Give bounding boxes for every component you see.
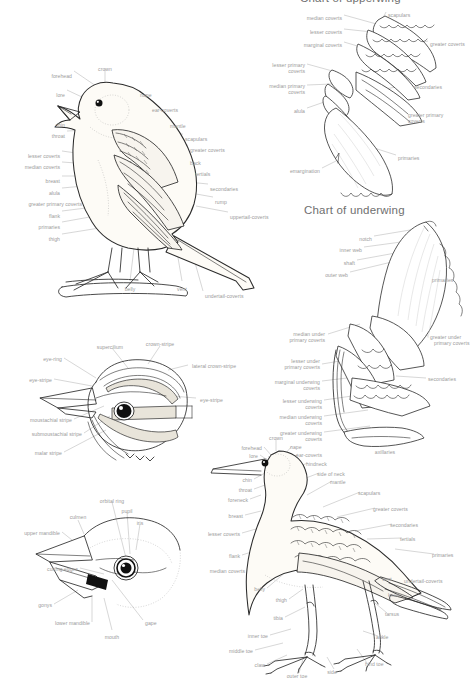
anatomy-label: claw [255, 662, 265, 668]
anatomy-label: nape [140, 92, 152, 98]
anatomy-label: crown [269, 435, 283, 441]
anatomy-label: notch [359, 236, 372, 242]
anatomy-label: scapulars [388, 12, 410, 18]
anatomy-label: gonys [38, 602, 52, 608]
anatomy-label: primary coverts [284, 364, 320, 370]
anatomy-label: ear-coverts [296, 452, 322, 458]
anatomy-label: hindneck [306, 461, 327, 467]
anatomy-label: median coverts [307, 15, 342, 21]
anatomy-label: alula [294, 108, 305, 114]
anatomy-label: belly [125, 286, 136, 292]
anatomy-label: hind toe [365, 661, 384, 667]
anatomy-label: crown [98, 66, 112, 72]
anatomy-label: crown-stripe [146, 341, 174, 347]
anatomy-label: breast [46, 178, 60, 184]
anatomy-label: lower mandible [55, 620, 90, 626]
upperwing-figure [240, 0, 472, 210]
anatomy-label: tarsus [385, 611, 399, 617]
anatomy-label: eye-stripe [29, 377, 52, 383]
anatomy-label: culmen [70, 514, 87, 520]
anatomy-label: throat [239, 487, 252, 493]
anatomy-label: side [327, 669, 337, 675]
anatomy-label: ankle [376, 634, 388, 640]
anatomy-label: primaries [432, 277, 453, 283]
anatomy-label: upper mandible [24, 530, 60, 536]
anatomy-label: submoustachial stripe [32, 431, 82, 437]
anatomy-label: rump [215, 199, 227, 205]
diagram-canvas: Chart of upperwing Chart of underwing [0, 0, 472, 682]
anatomy-label: inner toe [248, 633, 268, 639]
anatomy-label: middle toe [229, 648, 253, 654]
anatomy-label: thigh [49, 236, 60, 242]
anatomy-label: secondaries [210, 186, 238, 192]
anatomy-label: mouth [105, 634, 119, 640]
anatomy-label: coverts [288, 89, 305, 95]
anatomy-label: outer web [325, 272, 348, 278]
anatomy-label: orbital ring [100, 498, 124, 504]
anatomy-label: ear-coverts [152, 107, 178, 113]
anatomy-label: primaries [398, 155, 419, 161]
anatomy-label: secondaries [390, 522, 418, 528]
anatomy-label: malar stripe [35, 450, 62, 456]
anatomy-label: flank [49, 213, 60, 219]
anatomy-label: nape [290, 444, 302, 450]
anatomy-label: coverts [305, 404, 322, 410]
anatomy-label: coverts [288, 68, 305, 74]
anatomy-label: mantle [330, 479, 346, 485]
anatomy-label: forehead [51, 73, 72, 79]
anatomy-label: knee [388, 592, 399, 598]
anatomy-label: throat [52, 133, 65, 139]
anatomy-label: gape [145, 620, 157, 626]
anatomy-label: coverts [303, 385, 320, 391]
anatomy-label: greater coverts [430, 41, 465, 47]
anatomy-label: median coverts [210, 568, 245, 574]
anatomy-label: tertials [195, 171, 210, 177]
anatomy-label: primaries [39, 224, 60, 230]
anatomy-label: side of neck [317, 471, 345, 477]
anatomy-label: lateral crown-stripe [192, 363, 236, 369]
anatomy-label: primaries [432, 552, 453, 558]
anatomy-label: eye-ring [43, 356, 62, 362]
anatomy-label: lesser coverts [310, 29, 342, 35]
anatomy-label: breast [229, 513, 243, 519]
anatomy-label: mantle [170, 123, 186, 129]
anatomy-label: greater coverts [190, 147, 225, 153]
underwing-figure [240, 200, 472, 460]
anatomy-label: vent [177, 286, 187, 292]
anatomy-label: chin [55, 122, 65, 128]
anatomy-label: lore [249, 453, 258, 459]
bill-figure [0, 480, 220, 660]
anatomy-label: tertials [400, 536, 415, 542]
anatomy-label: pupil [121, 508, 132, 514]
anatomy-label: scapulars [358, 490, 380, 496]
anatomy-label: undertail-coverts [205, 293, 244, 299]
anatomy-label: inner web [339, 247, 362, 253]
anatomy-label: vent [382, 576, 392, 582]
anatomy-label: forehead [241, 445, 262, 451]
anatomy-label: greater coverts [373, 506, 408, 512]
anatomy-label: median coverts [25, 164, 60, 170]
anatomy-label: lore [56, 92, 65, 98]
anatomy-label: shaft [344, 260, 355, 266]
anatomy-label: thigh [276, 597, 287, 603]
anatomy-label: iris [137, 520, 144, 526]
anatomy-label: primary coverts [434, 340, 470, 346]
anatomy-label: outer toe [287, 673, 308, 679]
anatomy-label: alula [49, 190, 60, 196]
anatomy-label: secondaries [414, 84, 442, 90]
anatomy-label: marginal coverts [304, 42, 342, 48]
anatomy-label: tibia [273, 615, 283, 621]
anatomy-label: secondaries [428, 376, 456, 382]
anatomy-label: chin [242, 477, 252, 483]
anatomy-label: greater primary coverts [28, 201, 82, 207]
anatomy-label: undertail-coverts [404, 578, 443, 584]
anatomy-label: flank [229, 553, 240, 559]
anatomy-label: emargination [290, 168, 320, 174]
anatomy-label: lesser coverts [208, 531, 240, 537]
anatomy-label: back [190, 160, 201, 166]
anatomy-label: eye-stripe [200, 397, 223, 403]
anatomy-label: cutting edges [47, 566, 78, 572]
anatomy-label: lesser coverts [28, 153, 60, 159]
anatomy-label: coverts [408, 118, 425, 124]
anatomy-label: moustachial stripe [30, 417, 72, 423]
